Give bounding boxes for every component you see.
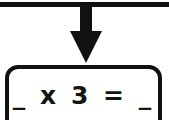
arrow-shaft <box>80 2 92 33</box>
downward-arrow-icon <box>70 2 102 63</box>
arrow-head <box>70 31 102 63</box>
equation-text: _ x 3 = _ <box>9 83 158 108</box>
diagram-canvas: _ x 3 = _ <box>0 0 169 120</box>
equation-node-box[interactable]: _ x 3 = _ <box>5 65 162 120</box>
